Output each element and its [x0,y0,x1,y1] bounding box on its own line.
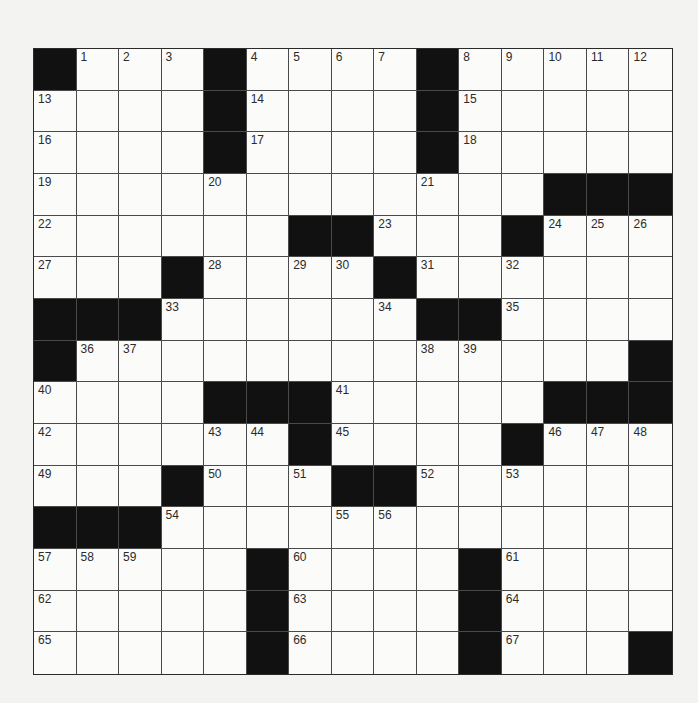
crossword-cell[interactable] [162,174,205,216]
crossword-cell[interactable]: 54 [162,507,205,549]
crossword-cell[interactable] [332,549,375,591]
crossword-cell[interactable]: 11 [587,49,630,91]
crossword-cell[interactable] [374,632,417,674]
crossword-cell[interactable] [162,132,205,174]
crossword-cell[interactable] [332,341,375,383]
crossword-cell[interactable]: 62 [34,591,77,633]
crossword-cell[interactable] [417,591,460,633]
crossword-cell[interactable]: 10 [544,49,587,91]
crossword-cell[interactable] [162,591,205,633]
crossword-cell[interactable] [374,132,417,174]
crossword-cell[interactable] [204,216,247,258]
crossword-cell[interactable]: 52 [417,466,460,508]
crossword-cell[interactable] [629,299,672,341]
crossword-cell[interactable]: 25 [587,216,630,258]
crossword-cell[interactable] [119,591,162,633]
crossword-cell[interactable] [629,132,672,174]
crossword-cell[interactable] [587,91,630,133]
crossword-cell[interactable]: 53 [502,466,545,508]
crossword-cell[interactable] [289,299,332,341]
crossword-cell[interactable]: 48 [629,424,672,466]
crossword-cell[interactable] [629,91,672,133]
crossword-cell[interactable]: 37 [119,341,162,383]
crossword-cell[interactable]: 39 [459,341,502,383]
crossword-cell[interactable] [332,91,375,133]
crossword-cell[interactable] [77,382,120,424]
crossword-cell[interactable]: 64 [502,591,545,633]
crossword-cell[interactable] [502,174,545,216]
crossword-cell[interactable] [544,549,587,591]
crossword-cell[interactable] [119,132,162,174]
crossword-cell[interactable] [204,632,247,674]
crossword-cell[interactable] [247,466,290,508]
crossword-cell[interactable]: 47 [587,424,630,466]
crossword-cell[interactable]: 22 [34,216,77,258]
crossword-cell[interactable]: 42 [34,424,77,466]
crossword-cell[interactable]: 14 [247,91,290,133]
crossword-cell[interactable] [459,382,502,424]
crossword-cell[interactable] [162,91,205,133]
crossword-cell[interactable] [374,591,417,633]
crossword-cell[interactable] [162,549,205,591]
crossword-cell[interactable]: 28 [204,257,247,299]
crossword-cell[interactable]: 3 [162,49,205,91]
crossword-cell[interactable] [119,174,162,216]
crossword-cell[interactable]: 44 [247,424,290,466]
crossword-cell[interactable] [587,299,630,341]
crossword-cell[interactable]: 32 [502,257,545,299]
crossword-cell[interactable] [459,424,502,466]
crossword-cell[interactable] [162,382,205,424]
crossword-cell[interactable] [544,341,587,383]
crossword-cell[interactable] [459,466,502,508]
crossword-cell[interactable] [289,174,332,216]
crossword-cell[interactable] [77,591,120,633]
crossword-cell[interactable]: 34 [374,299,417,341]
crossword-cell[interactable] [587,257,630,299]
crossword-cell[interactable] [544,132,587,174]
crossword-cell[interactable] [417,216,460,258]
crossword-cell[interactable] [204,507,247,549]
crossword-cell[interactable] [629,466,672,508]
crossword-cell[interactable] [119,632,162,674]
crossword-cell[interactable] [247,257,290,299]
crossword-cell[interactable]: 2 [119,49,162,91]
crossword-cell[interactable]: 59 [119,549,162,591]
crossword-cell[interactable] [374,549,417,591]
crossword-cell[interactable]: 12 [629,49,672,91]
crossword-cell[interactable] [587,632,630,674]
crossword-cell[interactable]: 33 [162,299,205,341]
crossword-cell[interactable]: 35 [502,299,545,341]
crossword-cell[interactable] [204,341,247,383]
crossword-cell[interactable] [417,382,460,424]
crossword-cell[interactable] [544,299,587,341]
crossword-cell[interactable]: 36 [77,341,120,383]
crossword-cell[interactable]: 63 [289,591,332,633]
crossword-cell[interactable]: 21 [417,174,460,216]
crossword-cell[interactable] [77,466,120,508]
crossword-cell[interactable]: 43 [204,424,247,466]
crossword-cell[interactable] [332,174,375,216]
crossword-cell[interactable] [247,174,290,216]
crossword-cell[interactable]: 9 [502,49,545,91]
crossword-cell[interactable] [119,466,162,508]
crossword-cell[interactable] [459,507,502,549]
crossword-cell[interactable]: 61 [502,549,545,591]
crossword-cell[interactable] [204,299,247,341]
crossword-cell[interactable] [587,549,630,591]
crossword-cell[interactable] [162,632,205,674]
crossword-cell[interactable] [289,91,332,133]
crossword-cell[interactable] [459,174,502,216]
crossword-cell[interactable] [459,216,502,258]
crossword-cell[interactable] [77,257,120,299]
crossword-cell[interactable] [332,132,375,174]
crossword-cell[interactable] [587,466,630,508]
crossword-cell[interactable] [502,507,545,549]
crossword-cell[interactable]: 18 [459,132,502,174]
crossword-cell[interactable] [502,382,545,424]
crossword-cell[interactable] [417,507,460,549]
crossword-cell[interactable] [77,91,120,133]
crossword-cell[interactable] [417,424,460,466]
crossword-cell[interactable] [289,341,332,383]
crossword-cell[interactable]: 27 [34,257,77,299]
crossword-cell[interactable] [247,299,290,341]
